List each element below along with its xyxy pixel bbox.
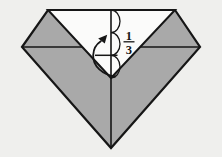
- origami-diagram: 1 3: [0, 0, 222, 157]
- fraction-numerator: 1: [126, 29, 132, 43]
- diagram-canvas: 1 3: [0, 0, 222, 157]
- fraction-denominator: 3: [126, 43, 132, 57]
